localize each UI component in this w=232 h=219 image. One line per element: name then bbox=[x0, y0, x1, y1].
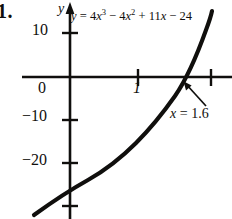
root-annotation-value: 1.6 bbox=[191, 106, 209, 121]
y-tick-label-10: 10 bbox=[32, 22, 48, 38]
problem-number: 1. bbox=[0, 1, 13, 21]
y-tick-label-neg20: −20 bbox=[22, 152, 47, 168]
equation-term3-coeff: 11 bbox=[149, 9, 161, 23]
y-tick-label-neg10: −10 bbox=[22, 108, 47, 124]
equation-equals: = bbox=[77, 9, 90, 23]
equation-label: y = 4x3 − 4x2 + 11x − 24 bbox=[71, 10, 192, 23]
equation-op3: − bbox=[166, 9, 179, 23]
equation-op1: − bbox=[106, 9, 119, 23]
x-tick-label-0: 0 bbox=[38, 80, 46, 96]
y-axis-label: y bbox=[58, 2, 64, 16]
root-annotation-equals: = bbox=[176, 106, 191, 121]
root-annotation-label: x = 1.6 bbox=[170, 107, 209, 121]
figure-panel: 1. y y = 4x3 − 4x2 + 11x − 24 10 0 1 −10… bbox=[0, 0, 232, 219]
x-tick-label-1: 1 bbox=[133, 80, 141, 96]
equation-term4: 24 bbox=[180, 9, 193, 23]
equation-op2: + bbox=[135, 9, 148, 23]
